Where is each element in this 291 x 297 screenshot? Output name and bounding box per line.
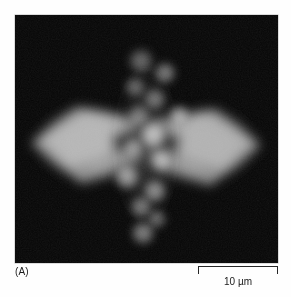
scale-bar-tick-right (277, 266, 278, 274)
scale-bar-rule (198, 266, 278, 274)
scale-bar: 10 µm (198, 266, 278, 288)
scale-bar-line (198, 266, 278, 267)
scale-bar-tick-left (198, 266, 199, 274)
micrograph-panel (15, 15, 278, 263)
panel-label: (A) (15, 266, 29, 278)
micrograph-image (15, 15, 278, 263)
scale-bar-label: 10 µm (198, 276, 278, 288)
figure-panel-a: (A) 10 µm (0, 0, 291, 297)
